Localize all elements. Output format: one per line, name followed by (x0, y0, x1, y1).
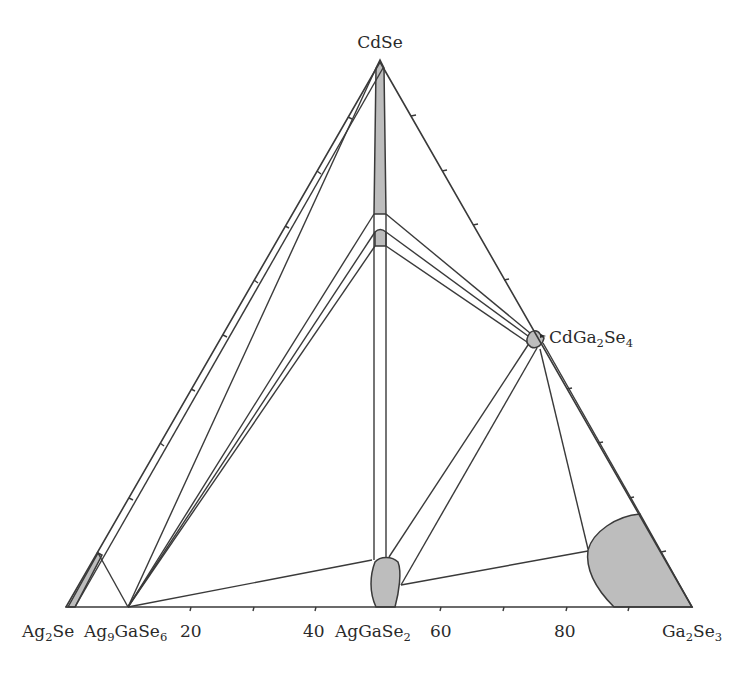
aggase2-solid-solution-region (371, 558, 400, 608)
tick-label-60: 60 (430, 621, 452, 641)
ag2se-solid-solution-region (68, 553, 102, 607)
label-ga2se3: Ga2Se3 (662, 621, 722, 644)
label-aggase2: AgGaSe2 (334, 621, 411, 644)
label-ag9gase6: Ag9GaSe6 (83, 621, 167, 644)
label-cdga2se4: CdGa2Se4 (549, 327, 633, 350)
tick-label-80: 80 (554, 621, 576, 641)
ga2se3-solid-solution-region (588, 514, 692, 607)
label-ag2se: Ag2Se (21, 621, 74, 644)
tick-label-20: 20 (180, 621, 202, 641)
join-island-region (375, 230, 386, 247)
cdse-solid-solution-region (374, 60, 386, 214)
edge-cdse-ga2se3 (380, 62, 692, 607)
label-cdse: CdSe (357, 32, 403, 52)
tick-label-40: 40 (303, 621, 325, 641)
solid-solution-regions (68, 60, 692, 607)
edge-ag2se-cdse (66, 62, 380, 607)
ternary-phase-diagram: CdSe Ag2Se Ag9GaSe6 20 40 AgGaSe2 60 80 … (0, 0, 750, 683)
